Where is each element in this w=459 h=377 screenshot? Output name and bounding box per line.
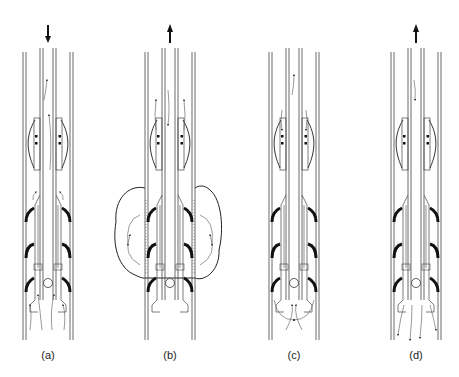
panel-b-tool <box>128 24 213 340</box>
panel-label-c: (c) <box>274 349 314 361</box>
panel-d-tool <box>391 24 441 340</box>
panel-label-d: (d) <box>396 349 436 361</box>
panel-a-tool <box>23 25 73 340</box>
panel-label-b: (b) <box>150 349 190 361</box>
diagram-canvas <box>0 0 459 377</box>
arrow-up-icon <box>167 24 173 43</box>
panel-c-tool <box>269 48 319 340</box>
arrow-down-icon <box>45 25 51 43</box>
panel-label-a: (a) <box>28 349 68 361</box>
arrow-up-icon <box>413 24 419 43</box>
fracture-cloud <box>115 186 222 279</box>
